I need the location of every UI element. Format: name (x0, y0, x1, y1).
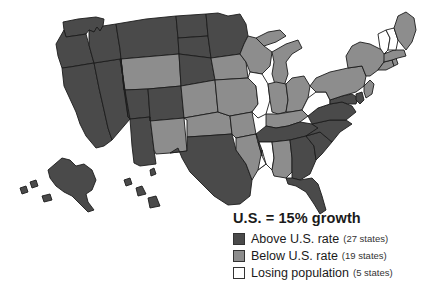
legend-swatch-losing (233, 267, 245, 279)
legend-label-losing: Losing population (251, 266, 349, 280)
legend-item-below[interactable]: Below U.S. rate (19 states) (233, 248, 428, 264)
state-AK[interactable] (20, 158, 96, 212)
legend-count-above: (27 states) (343, 232, 388, 246)
state-ND[interactable] (176, 14, 208, 38)
us-growth-map-figure: U.S. = 15% growth Above U.S. rate (27 st… (0, 0, 430, 305)
legend-count-losing: (5 states) (353, 266, 393, 280)
legend-count-below: (19 states) (342, 249, 387, 263)
state-NJ[interactable] (364, 80, 374, 98)
state-DE[interactable] (356, 92, 364, 104)
map-legend: U.S. = 15% growth Above U.S. rate (27 st… (233, 209, 428, 281)
state-AR[interactable] (230, 112, 256, 138)
state-HI[interactable] (124, 168, 160, 208)
state-OR[interactable] (56, 30, 94, 68)
state-NM[interactable] (150, 117, 187, 154)
legend-label-above: Above U.S. rate (251, 232, 339, 246)
legend-label-below: Below U.S. rate (251, 249, 338, 263)
legend-item-above[interactable]: Above U.S. rate (27 states) (233, 231, 428, 247)
state-CO[interactable] (148, 86, 184, 121)
state-AL[interactable] (272, 140, 292, 178)
state-MT[interactable] (116, 16, 179, 59)
legend-swatch-above (233, 233, 245, 245)
state-WY[interactable] (121, 54, 181, 90)
state-KS[interactable] (181, 80, 218, 118)
state-IN[interactable] (268, 82, 288, 114)
legend-swatch-below (233, 250, 245, 262)
state-MO[interactable] (215, 78, 258, 116)
legend-title: U.S. = 15% growth (233, 209, 428, 228)
legend-item-losing[interactable]: Losing population (5 states) (233, 265, 428, 281)
